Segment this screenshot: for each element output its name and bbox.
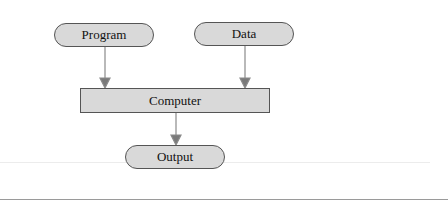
program-node: Program xyxy=(54,23,154,47)
computer-label: Computer xyxy=(149,93,201,109)
computer-node: Computer xyxy=(80,88,270,113)
output-node: Output xyxy=(125,145,225,169)
data-label: Data xyxy=(232,26,257,42)
output-label: Output xyxy=(157,149,193,165)
program-label: Program xyxy=(82,27,127,43)
data-node: Data xyxy=(194,22,294,46)
